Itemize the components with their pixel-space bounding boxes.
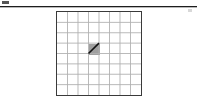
rule-right-tick-mark xyxy=(188,9,192,12)
grid-lines xyxy=(57,12,141,95)
header-rule-band xyxy=(0,0,197,11)
rule-left-tick-mark xyxy=(2,1,9,4)
horizontal-divider-shadow xyxy=(0,7,197,8)
grid-figure xyxy=(56,11,142,96)
